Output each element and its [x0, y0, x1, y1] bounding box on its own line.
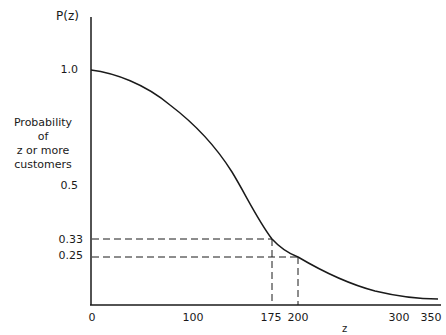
xtick-350: 350	[416, 312, 446, 324]
ylabel-line-2: of	[0, 130, 86, 144]
ylabel-line-3: z or more	[0, 144, 86, 158]
ytick-0.33: 0.33	[43, 234, 83, 246]
y-axis-title: P(z)	[56, 10, 79, 22]
xtick-175: 175	[256, 312, 286, 324]
xtick-0: 0	[77, 312, 107, 324]
xtick-300: 300	[384, 312, 414, 324]
ylabel-line-1: Probability	[0, 116, 86, 130]
xtick-200: 200	[283, 312, 313, 324]
probability-curve	[91, 70, 438, 299]
xtick-100: 100	[178, 312, 208, 324]
ytick-0.5: 0.5	[38, 180, 78, 192]
y-axis-label: Probability of z or more customers	[0, 116, 86, 172]
ytick-1.0: 1.0	[38, 64, 78, 76]
x-axis-label: z	[342, 323, 347, 335]
ytick-0.25: 0.25	[43, 250, 83, 262]
reference-lines	[92, 239, 298, 305]
ylabel-line-4: customers	[0, 158, 86, 172]
probability-chart: P(z) Probability of z or more customers …	[0, 0, 446, 335]
